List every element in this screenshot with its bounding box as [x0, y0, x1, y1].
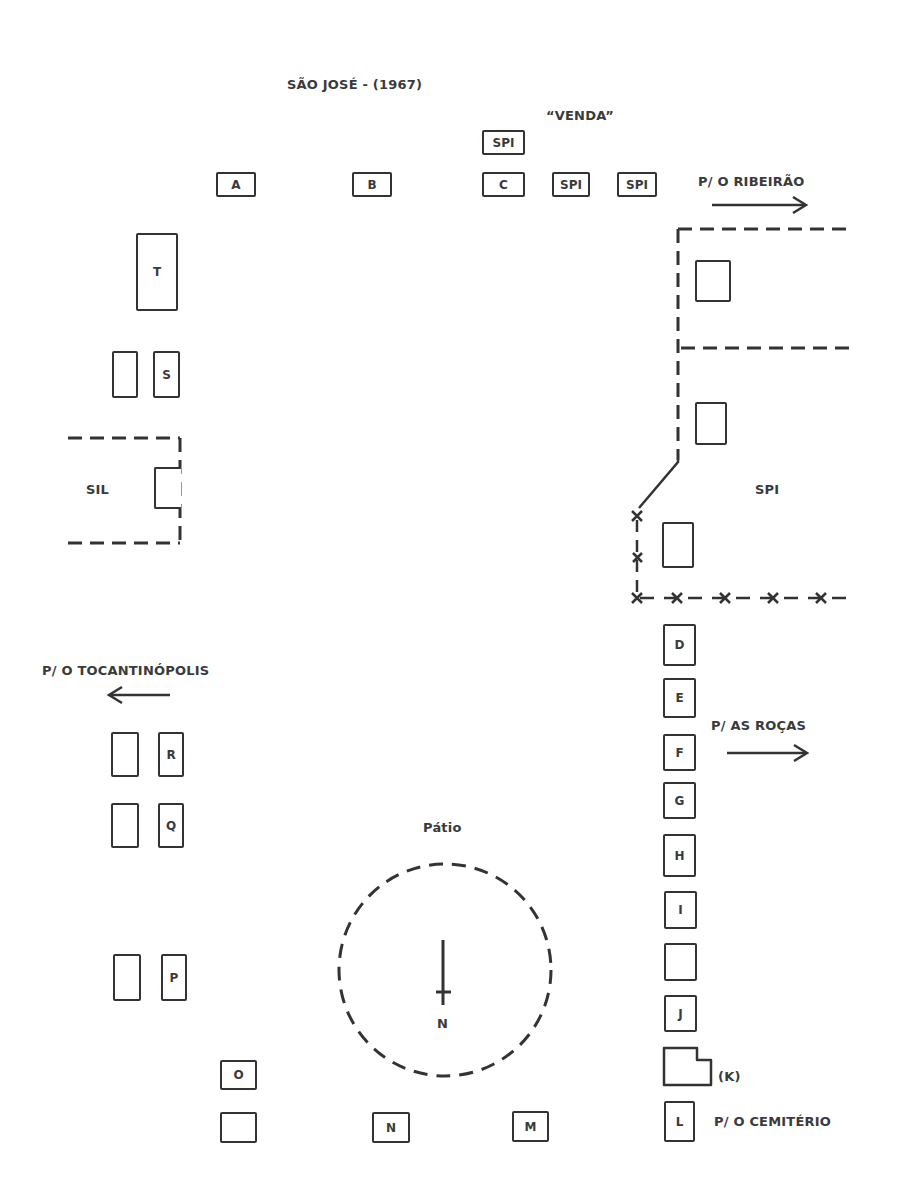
building-venda-spi[interactable]: SPI	[482, 130, 525, 155]
building-p-annex[interactable]	[113, 954, 141, 1001]
map-title: SÃO JOSÉ - (1967)	[287, 77, 422, 92]
patio-circle	[339, 864, 551, 1076]
north-arrow-icon	[436, 940, 451, 1005]
venda-label: “VENDA”	[546, 108, 614, 123]
building-n[interactable]: N	[372, 1112, 410, 1143]
building-unlabeled[interactable]	[664, 943, 697, 981]
building-s-annex[interactable]	[112, 351, 138, 398]
building-sil[interactable]	[154, 467, 181, 509]
patio-label: Pátio	[423, 820, 462, 835]
building-p[interactable]: P	[161, 954, 187, 1001]
north-label: N	[437, 1016, 448, 1031]
arrow-right-ribeirao-icon	[712, 197, 806, 213]
arrow-right-rocas-icon	[727, 745, 807, 761]
building-f[interactable]: F	[663, 734, 696, 771]
building-c[interactable]: C	[482, 172, 525, 197]
building-spi-2[interactable]: SPI	[617, 172, 657, 197]
spi-boundary	[639, 460, 678, 508]
area-spi-label: SPI	[755, 482, 779, 497]
building-h[interactable]: H	[663, 834, 696, 877]
building-q[interactable]: Q	[158, 803, 184, 848]
building-m[interactable]: M	[512, 1111, 549, 1142]
building-r[interactable]: R	[158, 732, 184, 777]
building-a[interactable]: A	[216, 172, 256, 197]
building-o[interactable]: O	[220, 1060, 257, 1090]
arrow-left-tocantinopolis-icon	[109, 687, 170, 703]
direction-cemiterio: P/ O CEMITÉRIO	[714, 1114, 831, 1129]
building-j[interactable]: J	[664, 995, 697, 1032]
building-l[interactable]: L	[664, 1101, 695, 1142]
building-g[interactable]: G	[663, 782, 696, 819]
building-spi-upper[interactable]	[695, 260, 731, 302]
area-sil-label: SIL	[86, 482, 109, 497]
direction-tocantinopolis: P/ O TOCANTINÓPOLIS	[42, 663, 209, 678]
building-t[interactable]: T	[136, 233, 178, 311]
building-q-annex[interactable]	[111, 803, 139, 848]
building-spi-lower[interactable]	[662, 522, 694, 568]
direction-rocas: P/ AS ROÇAS	[711, 718, 806, 733]
building-r-annex[interactable]	[111, 732, 139, 777]
building-b[interactable]: B	[352, 172, 392, 197]
direction-ribeirao: P/ O RIBEIRÃO	[698, 174, 805, 189]
building-i[interactable]: I	[664, 891, 697, 929]
building-spi-middle[interactable]	[695, 402, 727, 445]
building-d[interactable]: D	[663, 624, 696, 666]
building-s[interactable]: S	[153, 351, 180, 398]
building-e[interactable]: E	[663, 678, 696, 718]
building-bottom-blank[interactable]	[220, 1112, 257, 1143]
building-k-label: (K)	[718, 1069, 741, 1084]
building-k	[664, 1048, 711, 1085]
building-spi-1[interactable]: SPI	[552, 172, 590, 197]
